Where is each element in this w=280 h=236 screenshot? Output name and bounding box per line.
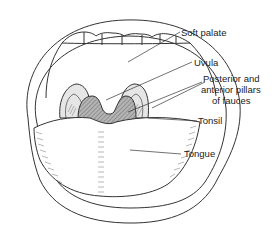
mouth-anatomy-diagram: Soft palate Uvula Posterior and anterior… bbox=[0, 0, 280, 236]
tongue bbox=[34, 117, 200, 196]
label-pillars-line3: of fauces bbox=[212, 95, 251, 106]
label-pillars-line1: Posterior and bbox=[203, 73, 260, 84]
label-tonsil: Tonsil bbox=[198, 115, 222, 126]
label-tongue: Tongue bbox=[184, 148, 215, 159]
label-soft-palate: Soft palate bbox=[181, 27, 226, 38]
label-uvula: Uvula bbox=[194, 57, 219, 68]
label-pillars-line2: anterior pillars bbox=[201, 84, 261, 95]
upper-teeth bbox=[62, 32, 190, 45]
